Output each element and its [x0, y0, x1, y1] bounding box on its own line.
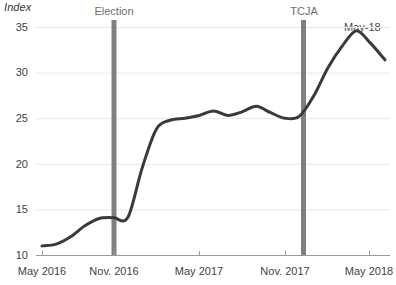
plot-area — [0, 0, 396, 285]
x-axis-ticks — [43, 251, 370, 255]
series-line-index — [42, 31, 385, 246]
gridlines — [36, 28, 390, 256]
event-bands — [112, 20, 307, 255]
chart-container: Index 35 30 25 20 15 10 May 2016 Nov. 20… — [0, 0, 396, 285]
event-band-tcja — [301, 20, 306, 255]
